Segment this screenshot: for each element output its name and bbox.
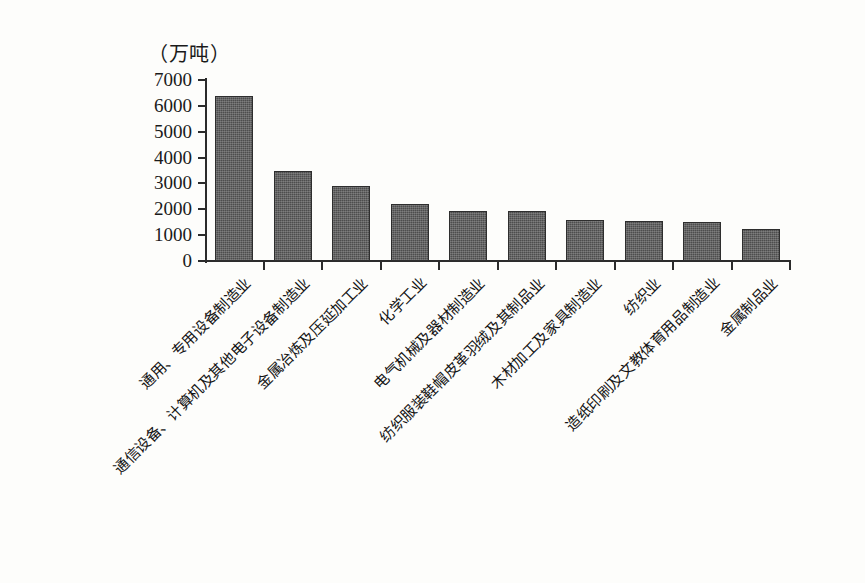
plot-area	[205, 80, 790, 261]
y-axis-tick	[198, 260, 205, 262]
y-axis-unit-caption: （万吨）	[148, 38, 230, 67]
y-axis-tick-label-text: 3000	[154, 173, 192, 192]
y-axis-tick	[198, 182, 205, 184]
bar	[449, 211, 487, 261]
x-axis-tick	[438, 262, 440, 270]
x-axis-tick	[789, 262, 791, 270]
y-axis-tick-label-text: 6000	[154, 96, 192, 115]
y-axis-tick-label-text: 1000	[154, 225, 192, 244]
x-axis-tick	[614, 262, 616, 270]
bar	[508, 211, 546, 261]
x-axis-category-label: 金属制品业	[714, 272, 782, 340]
x-axis-tick	[321, 262, 323, 270]
bar	[566, 220, 604, 261]
bar	[625, 221, 663, 261]
y-axis-tick	[198, 157, 205, 159]
bar	[391, 204, 429, 261]
x-axis-category-label: 纺织业	[618, 272, 665, 319]
bar	[332, 186, 370, 261]
x-axis-tick	[555, 262, 557, 270]
y-axis-tick	[198, 234, 205, 236]
x-axis-tick	[380, 262, 382, 270]
x-axis-tick	[263, 262, 265, 270]
y-axis-tick	[198, 79, 205, 81]
bar	[274, 171, 312, 262]
y-axis-tick-label-text: 4000	[154, 148, 192, 167]
bar-chart-figure: （万吨） 01000200030004000500060007000 通用、专用…	[0, 0, 865, 583]
bar	[742, 229, 780, 261]
bar	[683, 222, 721, 261]
x-axis-tick	[672, 262, 674, 270]
x-axis-category-label: 化学工业	[373, 272, 430, 329]
x-axis-tick	[497, 262, 499, 270]
x-axis-tick	[731, 262, 733, 270]
y-axis-tick	[198, 105, 205, 107]
y-axis-tick-label-text: 7000	[154, 70, 192, 89]
y-axis-tick	[198, 131, 205, 133]
x-axis-category-label: 木材加工及家具制造业	[485, 272, 606, 393]
y-axis-tick	[198, 208, 205, 210]
y-axis-tick-label-text: 0	[183, 251, 193, 270]
x-axis-category-label: 金属冶炼及压延加工业	[251, 272, 372, 393]
bar	[215, 96, 253, 261]
y-axis-tick-label-text: 2000	[154, 199, 192, 218]
y-axis-tick-label-text: 5000	[154, 122, 192, 141]
